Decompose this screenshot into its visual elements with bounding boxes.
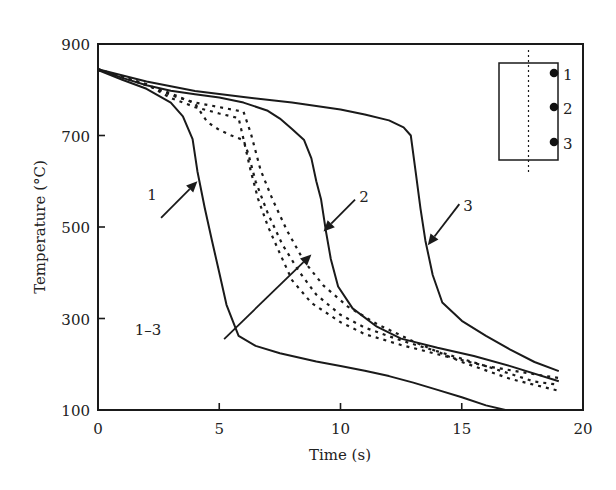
x-tick-label: 15: [452, 420, 471, 438]
x-tick-label: 5: [214, 420, 224, 438]
x-tick-label: 10: [331, 420, 350, 438]
series-line-3: [98, 69, 559, 371]
x-tick-label: 0: [93, 420, 103, 438]
x-axis-title: Time (s): [309, 446, 371, 464]
annotation-label-1-3: 1–3: [135, 321, 162, 339]
y-tick-label: 300: [61, 311, 90, 329]
inset-label-3: 3: [563, 135, 573, 153]
inset-thermocouple-2: [550, 103, 559, 112]
annotations-group: [161, 181, 459, 339]
y-tick-label: 900: [61, 36, 90, 54]
curves-group: [98, 69, 559, 410]
y-tick-label: 100: [61, 402, 90, 420]
annotation-arrow-4: [224, 254, 311, 339]
y-tick-label: 700: [61, 128, 90, 146]
y-axis-title: Temperature (°C): [31, 160, 49, 294]
series-line-1-3-c: [98, 70, 559, 391]
annotation-label-3: 3: [463, 197, 473, 215]
chart: 05101520100300500700900 Time (s) Tempera…: [0, 0, 616, 490]
y-tick-label: 500: [61, 219, 90, 237]
annotation-label-2: 2: [359, 188, 369, 206]
inset-label-1: 1: [563, 66, 573, 84]
annotation-arrow-3: [428, 204, 460, 245]
inset-label-2: 2: [563, 100, 573, 118]
annotation-arrow-2: [324, 200, 356, 232]
annotation-label-1: 1: [147, 186, 157, 204]
x-tick-label: 20: [573, 420, 592, 438]
inset-thermocouple-3: [550, 138, 559, 147]
series-line-1: [98, 70, 505, 410]
annotation-arrow-1: [161, 181, 197, 218]
inset-diagram: 1 2 3: [499, 50, 573, 174]
inset-thermocouple-1: [550, 69, 559, 78]
